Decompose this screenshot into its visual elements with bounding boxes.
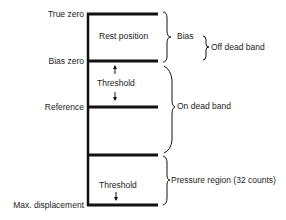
bias-zero-label: Bias zero	[49, 56, 84, 66]
pressure-region-brace-icon	[163, 156, 170, 205]
pressure-region-label: Pressure region (32 counts)	[171, 175, 276, 185]
bias-brace-icon	[163, 12, 171, 62]
max-displacement-label: Max. displacement	[13, 200, 84, 210]
threshold-lower-label: Threshold	[99, 180, 137, 190]
on-dead-band-brace-icon	[164, 66, 175, 153]
off-dead-band-brace-icon	[203, 36, 209, 60]
reference-label: Reference	[45, 102, 84, 112]
true-zero-label: True zero	[48, 9, 84, 19]
on-dead-band-label: On dead band	[177, 101, 231, 111]
off-dead-band-label: Off dead band	[211, 42, 265, 52]
threshold-down-arrow-icon	[113, 92, 117, 101]
bias-label: Bias	[177, 31, 194, 41]
threshold-upper-label: Threshold	[97, 78, 135, 88]
threshold-up-arrow-icon	[113, 65, 117, 74]
threshold-lower-arrow-icon	[114, 192, 118, 201]
rest-position-label: Rest position	[99, 31, 148, 41]
